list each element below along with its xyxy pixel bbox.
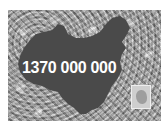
population-figure: 1370 000 000 bbox=[22, 59, 116, 77]
inset-map-icon bbox=[136, 90, 147, 104]
inset-thumbnail bbox=[131, 85, 151, 109]
